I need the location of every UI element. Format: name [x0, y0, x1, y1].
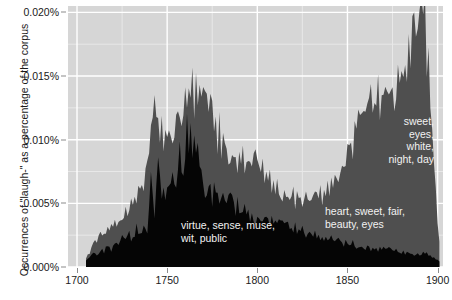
- x-tick-label: 1700: [65, 274, 88, 286]
- chart-root: Occurrences of "laugh-" as a percentage …: [0, 0, 452, 300]
- x-tick-mark: [438, 268, 439, 273]
- x-tick-mark: [77, 268, 78, 273]
- x-tick-label: 1850: [336, 274, 359, 286]
- x-tick-label: 1750: [155, 274, 178, 286]
- x-tick-mark: [257, 268, 258, 273]
- x-axis-tick-layer: 17001750180018501900: [0, 0, 452, 300]
- x-tick-mark: [347, 268, 348, 273]
- x-tick-mark: [167, 268, 168, 273]
- x-tick-label: 1800: [246, 274, 269, 286]
- x-tick-label: 1900: [426, 274, 449, 286]
